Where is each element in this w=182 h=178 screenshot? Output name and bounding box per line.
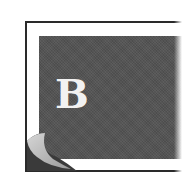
- right-edge-fade: [174, 0, 182, 178]
- page-curl-icon: [27, 133, 77, 171]
- letter-b-label: B: [55, 74, 89, 114]
